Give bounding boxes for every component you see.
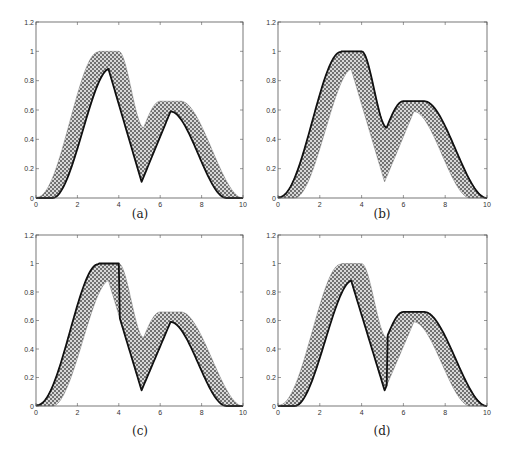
y-tick-label: 0	[272, 403, 276, 410]
y-tick-label: 1	[272, 260, 276, 267]
caption-a: (a)	[120, 207, 160, 221]
caption-b: (b)	[362, 207, 402, 221]
y-tick-label: 1.2	[266, 232, 276, 239]
x-tick-label: 2	[318, 409, 322, 416]
x-tick-label: 0	[276, 409, 280, 416]
x-tick-label: 4	[360, 409, 364, 416]
y-tick-label: 0.2	[266, 374, 276, 381]
y-tick-label: 0.4	[266, 346, 276, 353]
y-tick-label: 0.6	[266, 317, 276, 324]
caption-d: (d)	[362, 424, 402, 438]
x-tick-label: 10	[483, 409, 491, 416]
x-tick-label: 6	[401, 409, 405, 416]
caption-c: (c)	[120, 424, 160, 438]
x-tick-label: 8	[443, 409, 447, 416]
y-tick-label: 0.8	[266, 289, 276, 296]
